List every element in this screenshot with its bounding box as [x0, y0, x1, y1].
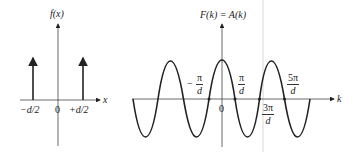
y-axis-label-Fk: F(k) = A(k): [200, 10, 246, 20]
frac-5pi-d: 5πd: [287, 73, 299, 96]
tick-plus-d2: +d/2: [69, 105, 89, 115]
x-axis-label-x: x: [103, 95, 107, 105]
frac-pi-d: πd: [238, 73, 245, 96]
x-axis-label-k: k: [337, 94, 341, 104]
tick-zero: 0: [55, 105, 60, 115]
y-axis-label-fx: f(x): [50, 9, 64, 19]
diagram-canvas: [0, 0, 357, 152]
frac-3pi-d: 3πd: [262, 103, 274, 126]
left-plot: [20, 24, 100, 146]
frac-minus-pi-d: πd: [196, 73, 203, 96]
tick-minus-d2: −d/2: [20, 105, 40, 115]
origin-label: 0: [219, 104, 224, 114]
right-plot: [132, 24, 334, 147]
minus-sign: −: [187, 79, 193, 89]
